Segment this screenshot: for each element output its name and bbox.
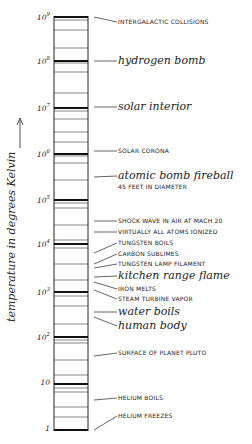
tick-exponent: 5	[47, 194, 51, 200]
tick-base: 10	[37, 104, 47, 113]
axis-label: temperature in degrees Kelvin	[5, 152, 18, 322]
phenomenon-label: TUNGSTEN BOILS	[118, 239, 173, 246]
tick-exponent: 9	[47, 11, 51, 17]
phenomenon-label: 45 FEET IN DIAMETER	[118, 183, 187, 190]
tick-exponent: 7	[47, 102, 51, 108]
tick-label: 1	[26, 424, 50, 433]
phenomenon-label: TUNGSTEN LAMP FILAMENT	[118, 260, 205, 267]
phenomenon-label: SOLAR CORONA	[118, 147, 169, 154]
phenomenon-label: INTERGALACTIC COLLISIONS	[118, 18, 209, 25]
phenomenon-label: water boils	[118, 305, 180, 318]
phenomenon-label: SHOCK WAVE IN AIR AT MACH 20	[118, 217, 223, 224]
tick-label: 10	[26, 378, 50, 387]
tick-label: 106	[26, 148, 50, 159]
phenomenon-label: SURFACE OF PLANET PLUTO	[118, 349, 206, 356]
tick-exponent: 3	[47, 286, 51, 292]
decade-lines	[54, 17, 88, 430]
phenomenon-label: CARBON SUBLIMES	[118, 250, 179, 257]
tick-base: 10	[40, 378, 50, 387]
tick-base: 10	[37, 57, 47, 66]
phenomenon-label: IRON MELTS	[118, 285, 156, 292]
tick-label: 102	[26, 331, 50, 342]
minor-gridlines	[54, 20, 88, 417]
tick-base: 10	[37, 13, 47, 22]
tick-base: 10	[37, 240, 47, 249]
phenomenon-label: human body	[118, 319, 187, 332]
tick-label: 104	[26, 238, 50, 249]
leader-lines	[94, 17, 117, 430]
phenomenon-label: VIRTUALLY ALL ATOMS IONIZED	[118, 228, 218, 235]
tick-label: 103	[26, 286, 50, 297]
tick-label: 109	[26, 11, 50, 22]
tick-exponent: 4	[47, 238, 51, 244]
phenomenon-label: atomic bomb fireball	[118, 169, 234, 182]
tick-exponent: 6	[47, 148, 51, 154]
tick-base: 10	[37, 150, 47, 159]
up-arrow-icon	[17, 118, 23, 148]
tick-label: 107	[26, 102, 50, 113]
tick-exponent: 2	[47, 331, 51, 337]
temperature-scale-diagram: temperature in degrees Kelvin 1091081071…	[0, 0, 252, 444]
scale-column	[54, 16, 88, 431]
tick-base: 10	[37, 333, 47, 342]
tick-base: 10	[37, 196, 47, 205]
phenomenon-label: solar interior	[118, 100, 191, 113]
phenomenon-label: HELIUM FREEZES	[118, 412, 173, 419]
phenomenon-label: HELIUM BOILS	[118, 394, 163, 401]
tick-base: 1	[45, 424, 50, 433]
tick-exponent: 8	[47, 55, 51, 61]
tick-base: 10	[37, 288, 47, 297]
phenomenon-label: kitchen range flame	[118, 269, 230, 282]
phenomenon-label: hydrogen bomb	[118, 54, 206, 67]
tick-label: 108	[26, 55, 50, 66]
tick-label: 105	[26, 194, 50, 205]
phenomenon-label: STEAM TURBINE VAPOR	[118, 295, 193, 302]
